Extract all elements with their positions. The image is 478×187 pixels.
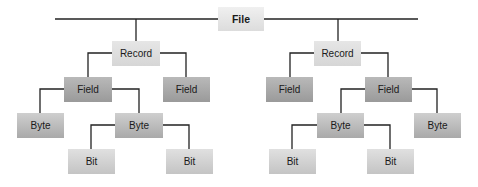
- record-node-right: Record: [314, 41, 361, 66]
- byte-node-left-b: Byte: [115, 113, 163, 138]
- record-node-left: Record: [112, 41, 160, 66]
- field-node-right-b: Field: [365, 77, 412, 102]
- field-node-left-b: Field: [163, 77, 210, 102]
- bit-node-right-a: Bit: [269, 149, 316, 174]
- field-node-right-a: Field: [266, 77, 313, 102]
- bit-node-left-b: Bit: [166, 149, 213, 174]
- byte-node-right-a: Byte: [317, 113, 364, 138]
- field-node-left-a: Field: [64, 77, 112, 102]
- byte-node-right-b: Byte: [414, 113, 461, 138]
- byte-node-left-a: Byte: [17, 113, 64, 138]
- file-node: File: [218, 7, 264, 31]
- bit-node-right-b: Bit: [367, 149, 414, 174]
- hierarchy-diagram: File Record Field Field Byte Byte Bit Bi…: [0, 0, 478, 187]
- bit-node-left-a: Bit: [68, 149, 115, 174]
